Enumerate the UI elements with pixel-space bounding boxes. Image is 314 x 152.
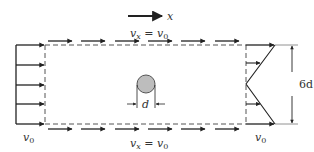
outlet-velocity-label: v0 [255, 131, 266, 145]
diameter-label: d [142, 98, 149, 111]
svg-text:vx = v0: vx = v0 [130, 137, 168, 151]
inlet-velocity-label: v0 [23, 131, 34, 145]
svg-text:vx = v0: vx = v0 [130, 27, 168, 41]
height-label: 6d [299, 78, 313, 91]
flow-diagram: x vx = v0 v0 [0, 0, 314, 152]
inlet-velocity-profile [16, 45, 44, 124]
top-velocity-label: vx = v0 [130, 27, 168, 41]
x-axis-label: x [167, 10, 174, 23]
cylinder [137, 75, 155, 93]
bottom-velocity-label: vx = v0 [130, 137, 168, 151]
outlet-velocity-profile [246, 45, 275, 124]
